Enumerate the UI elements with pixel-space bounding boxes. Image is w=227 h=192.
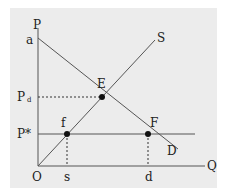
point-F-label: F xyxy=(150,116,158,130)
equilibrium-point xyxy=(99,94,105,100)
qd-label: d xyxy=(145,170,153,184)
point-f-label: f xyxy=(61,116,67,130)
origin-label: O xyxy=(32,170,42,184)
demand-curve xyxy=(38,38,178,149)
point-f xyxy=(64,131,70,137)
equilibrium-label: E xyxy=(97,77,106,91)
p-axis-label: P xyxy=(33,18,41,32)
demand-intercept-label: a xyxy=(26,33,33,47)
supply-label: S xyxy=(157,31,165,45)
supply-demand-diagram: P a S E Pd P* f F D Q O s d xyxy=(0,0,227,192)
pstar-label: P* xyxy=(17,127,31,141)
supply-curve xyxy=(38,40,155,166)
demand-label: D xyxy=(167,144,177,158)
qs-label: s xyxy=(64,170,70,184)
q-axis-label: Q xyxy=(207,159,217,173)
pd-label: Pd xyxy=(17,90,32,104)
point-F xyxy=(145,131,151,137)
